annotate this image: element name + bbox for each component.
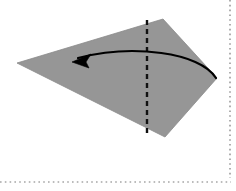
- paper-shape: [17, 19, 217, 137]
- origami-diagram-canvas: [0, 0, 236, 191]
- origami-diagram-svg: [0, 0, 236, 191]
